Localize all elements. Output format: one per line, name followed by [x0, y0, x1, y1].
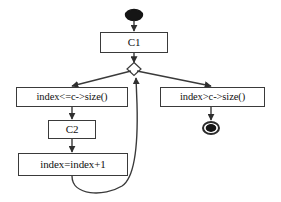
diagram-canvas: C1 index<=c->size() index>c->size() C2 i… [0, 0, 281, 202]
end-node-inner-dot [206, 125, 215, 131]
node-c2[interactable]: C2 [48, 120, 96, 139]
branch-diamond-shape [127, 63, 141, 76]
edge-branch-to-cond-true [72, 71, 131, 86]
node-condition-false[interactable]: index>c->size() [160, 87, 265, 107]
node-c1[interactable]: C1 [100, 32, 168, 53]
node-condition-true[interactable]: index<=c->size() [16, 87, 128, 107]
edge-branch-to-cond-false [137, 71, 211, 86]
node-increment[interactable]: index=index+1 [18, 153, 128, 176]
start-node-shape [126, 10, 143, 21]
